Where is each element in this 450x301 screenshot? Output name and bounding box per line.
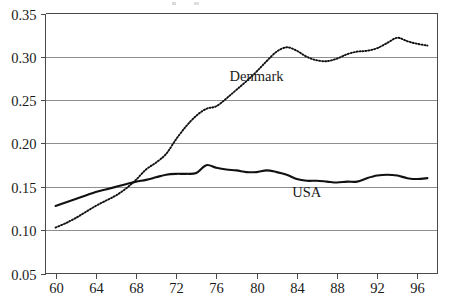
y-axis-ticks	[41, 15, 46, 275]
y-tick-label-0.2: 0.20	[11, 136, 36, 152]
y-tick-label-0.15: 0.15	[11, 180, 36, 196]
y-tick-label-0.05: 0.05	[11, 267, 36, 283]
x-tick-label-68: 68	[129, 280, 144, 296]
x-axis-ticks	[57, 274, 418, 279]
y-axis-tick-labels: 0.050.100.150.200.250.300.35	[11, 7, 36, 283]
y-tick-label-0.3: 0.30	[11, 50, 36, 66]
series-lines	[56, 38, 428, 228]
x-tick-label-88: 88	[330, 280, 345, 296]
y-tick-label-0.35: 0.35	[11, 7, 36, 23]
y-tick-label-0.25: 0.25	[11, 93, 36, 109]
x-tick-label-80: 80	[250, 280, 265, 296]
series-line-denmark	[56, 38, 428, 228]
y-tick-label-0.1: 0.10	[11, 223, 36, 239]
chart-figure: 0.050.100.150.200.250.300.35 60646872768…	[0, 0, 450, 301]
x-tick-label-76: 76	[209, 280, 224, 296]
series-line-usa	[56, 165, 428, 206]
x-axis-tick-labels: 60646872768084889296	[49, 280, 425, 296]
x-tick-label-64: 64	[89, 280, 104, 296]
series-label-denmark: Denmark	[230, 68, 285, 84]
x-tick-label-96: 96	[410, 280, 425, 296]
cropped-title-artifact	[172, 2, 199, 5]
x-tick-label-60: 60	[49, 280, 64, 296]
series-label-usa: USA	[292, 184, 322, 200]
x-tick-label-92: 92	[370, 280, 385, 296]
x-tick-label-84: 84	[290, 280, 305, 296]
x-tick-label-72: 72	[169, 280, 184, 296]
line-chart-svg: 0.050.100.150.200.250.300.35 60646872768…	[0, 0, 450, 301]
